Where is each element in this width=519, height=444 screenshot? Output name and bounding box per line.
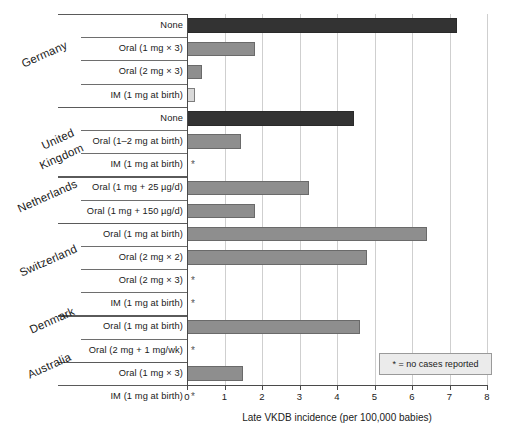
no-cases-marker: * (191, 273, 195, 289)
chart-row: Oral (1 mg × 3) (0, 37, 519, 60)
x-tick-5 (375, 385, 376, 390)
x-tick-label-7: 7 (447, 391, 452, 402)
row-label: Oral (2 mg × 3) (119, 60, 187, 83)
row-label: IM (1 mg at birth) (110, 292, 187, 315)
chart-row: Oral (2 mg × 3)* (0, 269, 519, 292)
bar-oral (187, 204, 255, 218)
x-tick-7 (450, 385, 451, 390)
row-label: Oral (2 mg × 3) (119, 269, 187, 292)
row-label: Oral (1 mg at birth) (103, 315, 187, 338)
bar-oral (187, 134, 241, 148)
no-cases-marker: * (191, 157, 195, 173)
bar-oral (187, 227, 427, 241)
chart-row: Oral (1 mg at birth) (0, 223, 519, 246)
bar-oral (187, 65, 202, 79)
chart-row: Oral (2 mg × 2) (0, 246, 519, 269)
row-label: Oral (1 mg + 25 µg/d) (92, 176, 187, 199)
x-tick-1 (225, 385, 226, 390)
vkdb-incidence-bar-chart: NoneOral (1 mg × 3)Oral (2 mg × 3)IM (1 … (0, 0, 519, 444)
row-label: IM (1 mg at birth) (110, 84, 187, 107)
x-tick-0 (187, 385, 188, 390)
no-cases-marker: * (191, 296, 195, 312)
x-tick-label-2: 2 (259, 391, 264, 402)
chart-row: None (0, 107, 519, 130)
chart-row: IM (1 mg at birth)* (0, 292, 519, 315)
row-label: IM (1 mg at birth) (110, 385, 187, 408)
x-tick-label-0: 0 (184, 391, 189, 402)
row-label: IM (1 mg at birth) (110, 153, 187, 176)
bar-oral (187, 42, 255, 56)
x-tick-6 (412, 385, 413, 390)
x-tick-8 (487, 385, 488, 390)
row-label: Oral (2 mg × 2) (119, 246, 187, 269)
chart-row: IM (1 mg at birth) (0, 84, 519, 107)
bar-oral (187, 181, 309, 195)
chart-row: IM (1 mg at birth)* (0, 153, 519, 176)
bar-none (187, 111, 354, 125)
y-axis-line (187, 14, 188, 385)
no-cases-marker: * (191, 343, 195, 359)
x-tick-3 (300, 385, 301, 390)
row-label: Oral (1 mg × 3) (119, 37, 187, 60)
row-label: None (160, 14, 187, 37)
row-label: None (160, 107, 187, 130)
row-label: Oral (1 mg × 3) (119, 362, 187, 385)
x-tick-label-1: 1 (222, 391, 227, 402)
bar-oral (187, 250, 367, 264)
chart-rows: NoneOral (1 mg × 3)Oral (2 mg × 3)IM (1 … (0, 14, 519, 385)
x-tick-4 (337, 385, 338, 390)
row-label: Oral (1 mg + 150 µg/d) (87, 200, 187, 223)
no-cases-marker: * (191, 389, 195, 405)
x-tick-2 (262, 385, 263, 390)
bar-oral (187, 366, 243, 380)
x-tick-label-6: 6 (409, 391, 414, 402)
x-tick-label-3: 3 (297, 391, 302, 402)
x-tick-label-8: 8 (484, 391, 489, 402)
chart-row: Oral (1 mg + 150 µg/d) (0, 200, 519, 223)
chart-row: Oral (1 mg at birth) (0, 315, 519, 338)
chart-row: Oral (2 mg × 3) (0, 60, 519, 83)
row-label: Oral (2 mg + 1 mg/wk) (89, 339, 187, 362)
row-label: Oral (1 mg at birth) (103, 223, 187, 246)
bar-oral (187, 320, 360, 334)
x-tick-label-4: 4 (334, 391, 339, 402)
x-tick-label-5: 5 (372, 391, 377, 402)
x-axis-label: Late VKDB incidence (per 100,000 babies) (187, 412, 487, 423)
chart-row: None (0, 14, 519, 37)
legend-no-cases: * = no cases reported (379, 353, 492, 375)
row-label: Oral (1–2 mg at birth) (92, 130, 187, 153)
bar-none (187, 18, 457, 32)
